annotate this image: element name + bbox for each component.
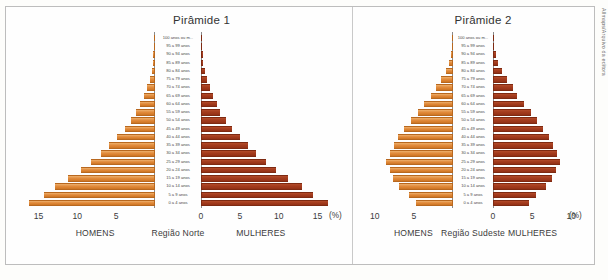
female-bar	[201, 43, 202, 50]
female-bar	[493, 126, 543, 133]
bar-row-male	[363, 93, 453, 100]
bar-row-female	[493, 109, 583, 116]
female-bar	[201, 175, 288, 182]
bar-row-male	[19, 134, 155, 141]
male-bar	[101, 150, 155, 157]
age-group-label: 100 anos ou m...	[155, 35, 201, 42]
age-group-label: 10 a 14 anos	[155, 183, 201, 190]
age-group-label: 30 a 34 anos	[155, 150, 201, 157]
axis-footer-1: HOMENSRegião NorteMULHERES	[19, 228, 337, 242]
female-bar	[493, 76, 507, 83]
percent-unit-label: (%)	[569, 211, 582, 220]
region-label: Região Norte	[151, 228, 204, 238]
bar-row-male	[19, 93, 155, 100]
female-bar	[201, 126, 232, 133]
age-group-label: 20 a 24 anos	[155, 167, 201, 174]
female-bar	[201, 109, 220, 116]
female-bar	[493, 117, 537, 124]
x-tick-female-5: 5	[530, 211, 535, 221]
chart-title-1: Pirâmide 1	[5, 14, 352, 26]
bar-row-female	[493, 43, 583, 50]
bar-row-male	[363, 35, 453, 42]
age-group-label: 45 a 49 anos	[453, 126, 493, 133]
female-bar	[493, 192, 536, 199]
sex-label-male: HOMENS	[394, 228, 433, 238]
male-bar	[55, 183, 155, 190]
x-tick-female-15: 15	[313, 211, 323, 221]
age-group-label: 5 a 9 anos	[155, 192, 201, 199]
female-bar	[201, 101, 217, 108]
bar-row-female	[493, 175, 583, 182]
bar-row-male	[363, 109, 453, 116]
age-group-label: 35 a 39 anos	[155, 142, 201, 149]
bar-row-male	[19, 51, 155, 58]
pyramid-plot-2: 0 a 4 anos5 a 9 anos10 a 14 anos15 a 19 …	[363, 32, 583, 208]
age-group-label: 90 a 94 anos	[453, 51, 493, 58]
female-half-2	[493, 32, 583, 208]
bar-row-male	[19, 43, 155, 50]
chart-title-2: Pirâmide 2	[353, 14, 595, 26]
bar-row-male	[19, 76, 155, 83]
x-tick-female-10: 10	[274, 211, 284, 221]
bar-row-male	[363, 142, 453, 149]
female-bar	[493, 109, 531, 116]
female-bar	[493, 51, 496, 58]
age-group-label: 55 a 59 anos	[453, 109, 493, 116]
bar-row-male	[19, 35, 155, 42]
x-tick-male-5: 5	[114, 211, 119, 221]
male-half-1	[19, 32, 155, 208]
female-bar	[201, 142, 248, 149]
female-bar	[493, 43, 494, 50]
bar-row-female	[493, 126, 583, 133]
bar-row-female	[201, 126, 337, 133]
age-group-label: 85 a 89 anos	[155, 60, 201, 67]
bar-row-male	[363, 134, 453, 141]
bar-row-female	[493, 150, 583, 157]
bar-row-male	[363, 117, 453, 124]
bar-row-female	[493, 60, 583, 67]
age-group-label: 90 a 94 anos	[155, 51, 201, 58]
bar-row-male	[19, 109, 155, 116]
bar-row-male	[363, 167, 453, 174]
bar-row-female	[201, 101, 337, 108]
age-group-label: 20 a 24 anos	[453, 167, 493, 174]
male-bar	[390, 150, 453, 157]
male-bar	[140, 101, 155, 108]
age-group-label: 75 a 79 anos	[155, 76, 201, 83]
male-bar	[416, 200, 453, 207]
age-group-label: 80 a 84 anos	[155, 68, 201, 75]
bar-row-male	[363, 43, 453, 50]
male-bar	[147, 84, 155, 91]
female-bar	[201, 117, 226, 124]
male-bar	[409, 192, 453, 199]
bar-row-female	[201, 76, 337, 83]
x-axis-ticks-2: 1050510(%)	[363, 211, 583, 225]
bar-row-female	[493, 142, 583, 149]
female-bar	[493, 200, 529, 207]
figure-canvas: Allmaps/Arquivo da editora Pirâmide 1 0 …	[0, 0, 608, 280]
female-bar	[201, 51, 203, 58]
female-bar	[201, 200, 328, 207]
age-group-label: 0 a 4 anos	[453, 200, 493, 207]
age-group-label: 40 a 44 anos	[155, 134, 201, 141]
bar-row-male	[19, 183, 155, 190]
male-bar	[44, 192, 155, 199]
male-bar	[394, 142, 453, 149]
female-half-1	[201, 32, 337, 208]
male-bar	[390, 167, 453, 174]
pyramid-panel-2: Pirâmide 2 0 a 4 anos5 a 9 anos10 a 14 a…	[353, 6, 595, 265]
bar-row-male	[19, 200, 155, 207]
bar-row-female	[201, 60, 337, 67]
bar-row-male	[19, 175, 155, 182]
age-group-label: 35 a 39 anos	[453, 142, 493, 149]
male-bar	[446, 68, 453, 75]
age-group-label: 75 a 79 anos	[453, 76, 493, 83]
bar-row-female	[493, 183, 583, 190]
male-bar	[136, 109, 155, 116]
x-tick-female-5: 5	[237, 211, 242, 221]
female-bar	[201, 60, 203, 67]
female-bar	[493, 101, 524, 108]
bar-row-male	[19, 101, 155, 108]
female-bar	[493, 84, 513, 91]
x-tick-male-15: 15	[34, 211, 44, 221]
